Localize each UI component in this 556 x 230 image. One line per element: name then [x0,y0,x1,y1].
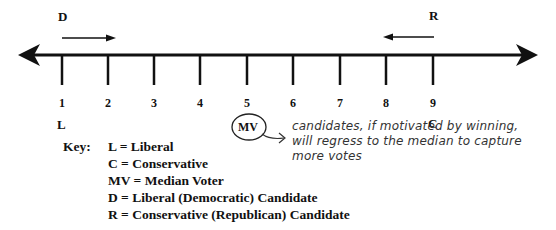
tick-label: 3 [151,96,157,111]
tick-label: 7 [337,96,343,111]
key-item-democratic-candidate: D = Liberal (Democratic) Candidate [108,189,350,206]
liberal-end-label: L [57,118,66,131]
annotation-line-1: candidates, if motivated by winning, [292,119,518,133]
tick-label: 9 [430,96,436,111]
key-item-republican-candidate: R = Conservative (Republican) Candidate [108,206,350,223]
candidate-d-label: D [58,10,67,23]
median-voter-label: MV [238,121,258,134]
candidate-r-label: R [429,9,438,22]
key-list: L = Liberal C = Conservative MV = Median… [108,138,350,223]
key-item-liberal: L = Liberal [108,138,350,155]
tick-label: 1 [59,96,65,111]
tick-label: 6 [290,96,296,111]
tick-label: 4 [197,96,203,111]
d-arrowhead-icon [106,35,116,42]
axis-ticks [62,55,433,85]
tick-label: 8 [383,96,389,111]
key-title: Key: [63,138,91,155]
r-arrowhead-icon [383,34,393,41]
key-item-conservative: C = Conservative [108,155,350,172]
tick-label: 2 [105,96,111,111]
key-item-median-voter: MV = Median Voter [108,172,350,189]
tick-label: 5 [244,96,250,111]
